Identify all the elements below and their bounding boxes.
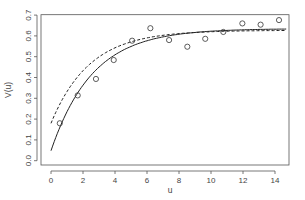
y-tick-label: 0.4 [24, 71, 33, 83]
data-point [111, 57, 116, 62]
data-point [185, 44, 190, 49]
data-point [166, 37, 171, 42]
data-point [148, 26, 153, 31]
solid-model-curve [51, 29, 286, 151]
data-point [93, 76, 98, 81]
x-axis-label: u [168, 185, 173, 195]
data-point [258, 22, 263, 27]
plot-area [41, 15, 289, 165]
data-points [57, 17, 281, 125]
variogram-chart: 02468101214 0.00.10.20.30.40.50.60.7 u V… [0, 0, 305, 200]
x-tick-label: 8 [177, 176, 182, 185]
y-tick-label: 0.3 [24, 92, 33, 104]
x-tick-label: 10 [207, 176, 216, 185]
fitted-curves [51, 29, 286, 151]
x-tick-label: 14 [271, 176, 280, 185]
y-tick-label: 0.5 [24, 51, 33, 63]
x-axis: 02468101214 [49, 171, 280, 185]
y-tick-label: 0.6 [24, 30, 33, 42]
y-tick-label: 0.1 [24, 134, 33, 146]
plot-frame [41, 15, 289, 165]
x-tick-label: 4 [113, 176, 118, 185]
y-axis: 0.00.10.20.30.40.50.60.7 [24, 9, 37, 166]
y-tick-label: 0.2 [24, 113, 33, 125]
dashed-model-curve [51, 31, 286, 124]
y-tick-label: 0.0 [24, 155, 33, 167]
x-tick-label: 0 [49, 176, 54, 185]
data-point [240, 21, 245, 26]
y-tick-label: 0.7 [24, 9, 33, 21]
x-tick-label: 12 [239, 176, 248, 185]
data-point [203, 36, 208, 41]
y-axis-label: V(u) [3, 82, 13, 98]
data-point [276, 17, 281, 22]
x-tick-label: 6 [145, 176, 150, 185]
x-tick-label: 2 [81, 176, 86, 185]
